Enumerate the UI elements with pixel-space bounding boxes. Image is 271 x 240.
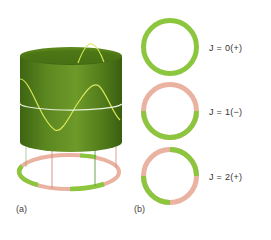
- panel-label-b: (b): [134, 204, 145, 214]
- ring-j1: [144, 85, 197, 138]
- ring-j0: [144, 21, 197, 74]
- ring-j2: [144, 150, 197, 203]
- label-j1: J = 1(−): [209, 107, 242, 117]
- panel-label-a: (a): [16, 204, 27, 214]
- label-j0: J = 0(+): [209, 43, 242, 53]
- base-ring: [19, 155, 119, 189]
- label-j2: J = 2(+): [209, 172, 242, 182]
